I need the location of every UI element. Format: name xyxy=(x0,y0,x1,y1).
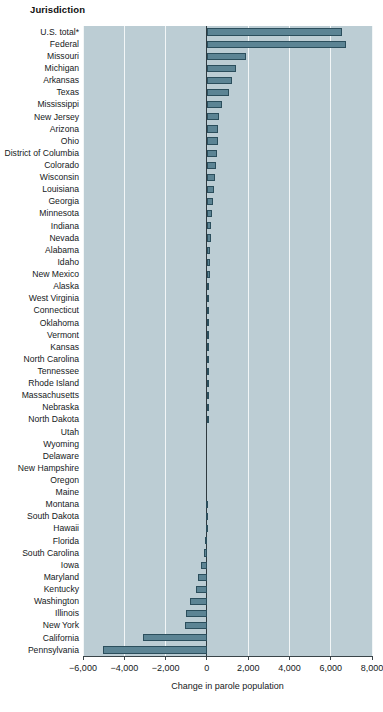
category-label: Maryland xyxy=(0,573,79,582)
bar xyxy=(207,380,209,387)
category-label: South Dakota xyxy=(0,512,79,521)
bar xyxy=(205,537,207,544)
category-label: West Virginia xyxy=(0,294,79,303)
bar xyxy=(207,234,211,241)
bar xyxy=(143,634,207,641)
category-label: New York xyxy=(0,621,79,630)
category-label: Nevada xyxy=(0,234,79,243)
bar xyxy=(204,549,207,556)
bar xyxy=(207,174,215,181)
bar xyxy=(207,186,214,193)
bar xyxy=(207,319,209,326)
category-label: Alabama xyxy=(0,246,79,255)
bar xyxy=(206,501,208,508)
category-label: Arkansas xyxy=(0,76,79,85)
bar xyxy=(207,41,346,48)
bar xyxy=(207,125,219,132)
x-tick xyxy=(248,656,249,660)
category-label: North Carolina xyxy=(0,355,79,364)
category-label: Oregon xyxy=(0,476,79,485)
bar xyxy=(207,65,236,72)
bar xyxy=(207,101,222,108)
category-label: California xyxy=(0,634,79,643)
category-label: Ohio xyxy=(0,137,79,146)
bar xyxy=(185,622,207,629)
bar xyxy=(186,610,207,617)
bar xyxy=(207,210,212,217)
category-label: Florida xyxy=(0,537,79,546)
category-label: Illinois xyxy=(0,609,79,618)
category-label: Federal xyxy=(0,40,79,49)
x-tick xyxy=(372,656,373,660)
category-label: Montana xyxy=(0,500,79,509)
category-label: Massachusetts xyxy=(0,391,79,400)
bar xyxy=(207,89,229,96)
category-label: Colorado xyxy=(0,161,79,170)
bar xyxy=(207,222,211,229)
category-label: Delaware xyxy=(0,452,79,461)
bar xyxy=(207,356,209,363)
plot-panel xyxy=(83,26,372,656)
bar xyxy=(207,404,209,411)
category-label: New Jersey xyxy=(0,113,79,122)
x-tick-label: 4,000 xyxy=(278,663,301,673)
bar xyxy=(207,259,210,266)
category-label: Iowa xyxy=(0,561,79,570)
category-axis-labels: U.S. total*FederalMissouriMichiganArkans… xyxy=(0,26,79,656)
bar xyxy=(198,574,207,581)
bar xyxy=(103,646,207,653)
x-tick xyxy=(83,656,84,660)
bar xyxy=(207,162,216,169)
x-tick xyxy=(330,656,331,660)
category-label: Missouri xyxy=(0,52,79,61)
category-label: Tennessee xyxy=(0,367,79,376)
x-tick-label: 8,000 xyxy=(361,663,383,673)
category-label: Wyoming xyxy=(0,440,79,449)
category-label: Minnesota xyxy=(0,209,79,218)
bar xyxy=(207,271,210,278)
category-label: District of Columbia xyxy=(0,149,79,158)
category-label: Arizona xyxy=(0,125,79,134)
bar xyxy=(207,368,209,375)
bar xyxy=(206,513,208,520)
category-label: Idaho xyxy=(0,258,79,267)
category-label: Oklahoma xyxy=(0,319,79,328)
x-tick xyxy=(289,656,290,660)
bar xyxy=(207,343,209,350)
x-tick-label: 2,000 xyxy=(237,663,260,673)
category-label: Michigan xyxy=(0,64,79,73)
category-label: Washington xyxy=(0,597,79,606)
x-tick-label: 0 xyxy=(204,663,209,673)
x-tick-label: 6,000 xyxy=(319,663,342,673)
bar xyxy=(207,198,213,205)
category-label: Utah xyxy=(0,428,79,437)
jurisdiction-column-header: Jurisdiction xyxy=(30,4,85,15)
bar xyxy=(207,331,209,338)
bar xyxy=(207,28,342,35)
category-label: Kentucky xyxy=(0,585,79,594)
x-axis-line xyxy=(83,656,372,657)
x-tick xyxy=(124,656,125,660)
bar xyxy=(207,53,246,60)
category-label: Louisiana xyxy=(0,185,79,194)
bar xyxy=(201,562,206,569)
category-label: Kansas xyxy=(0,343,79,352)
bar xyxy=(207,150,217,157)
bar xyxy=(207,416,209,423)
x-tick xyxy=(165,656,166,660)
category-label: Mississippi xyxy=(0,100,79,109)
category-label: Wisconsin xyxy=(0,173,79,182)
category-label: New Mexico xyxy=(0,270,79,279)
category-label: Nebraska xyxy=(0,403,79,412)
category-label: New Hampshire xyxy=(0,464,79,473)
bar xyxy=(190,598,207,605)
category-label: Maine xyxy=(0,488,79,497)
category-label: U.S. total* xyxy=(0,28,79,37)
bar xyxy=(207,77,232,84)
bar xyxy=(207,247,211,254)
x-axis-title: Change in parole population xyxy=(83,681,372,691)
category-label: North Dakota xyxy=(0,415,79,424)
category-label: Texas xyxy=(0,88,79,97)
category-label: Indiana xyxy=(0,222,79,231)
